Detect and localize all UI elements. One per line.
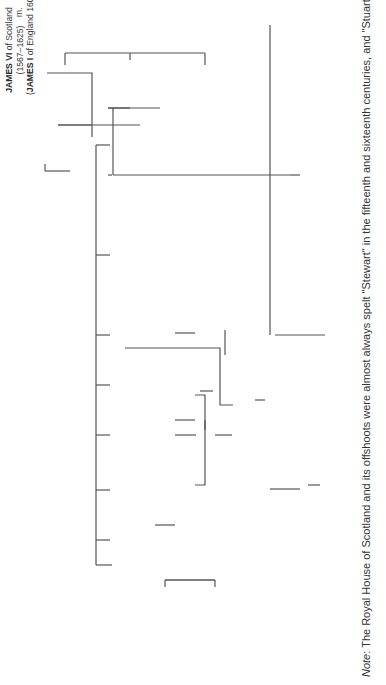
alt-name: JAMES I <box>25 58 35 92</box>
alt-suffix: of England 1603–25 <box>25 0 35 58</box>
family-tree-diagram: JAMES VI of Scotland (1567–1625) (JAMES … <box>0 0 386 685</box>
dates: (1567–1625) <box>15 5 26 95</box>
name: JAMES VI <box>4 53 14 93</box>
suffix: of Scotland <box>4 7 14 52</box>
note-text: : The Royal House of Scotland and its of… <box>360 0 372 654</box>
footnote: Note: The Royal House of Scotland and it… <box>360 0 372 677</box>
marriage-label: m. <box>14 7 25 17</box>
person-james-vi: JAMES VI of Scotland (1567–1625) (JAMES … <box>4 5 36 95</box>
tree-connector-lines <box>0 0 386 685</box>
note-prefix: Note <box>360 654 372 677</box>
